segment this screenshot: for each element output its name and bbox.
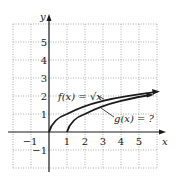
y-axis-label: y xyxy=(39,11,46,22)
svg-text:−1: −1 xyxy=(32,145,47,156)
svg-text:5: 5 xyxy=(136,136,142,147)
y-axis-arrow-icon xyxy=(47,14,52,21)
x-axis-label: x xyxy=(162,136,168,147)
f-label: f(x) = √x xyxy=(57,91,102,102)
svg-text:1: 1 xyxy=(41,109,47,120)
svg-text:3: 3 xyxy=(41,73,47,84)
svg-text:4: 4 xyxy=(118,136,124,147)
svg-text:1: 1 xyxy=(64,136,70,147)
x-axis-arrow-icon xyxy=(159,130,166,135)
svg-text:3: 3 xyxy=(100,136,106,147)
f-arrow-icon xyxy=(152,89,160,95)
svg-text:4: 4 xyxy=(41,55,47,66)
svg-text:5: 5 xyxy=(41,37,47,48)
svg-text:2: 2 xyxy=(82,136,88,147)
g-label: g(x) = ? xyxy=(114,113,155,124)
graph: −1 1 2 3 4 5 5 4 3 2 1 −1 y x f(x) = √x … xyxy=(0,0,176,178)
svg-text:2: 2 xyxy=(41,91,47,102)
